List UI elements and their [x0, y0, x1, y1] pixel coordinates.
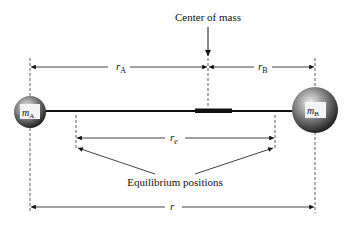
equilibrium-positions-label: Equilibrium positions [127, 176, 223, 188]
diatomic-molecule-diagram: Center of mass rA rB mA mB re Equilibriu… [0, 0, 350, 227]
r-dimension: r [31, 200, 314, 212]
center-of-mass-label: Center of mass [175, 11, 241, 23]
equilibrium-pointers [78, 148, 273, 174]
mass-b: mB [292, 87, 338, 133]
center-bar [195, 109, 232, 114]
r-a-dimension: rA [31, 60, 207, 75]
r-b-label: rB [258, 60, 268, 75]
r-a-label: rA [116, 60, 126, 75]
r-e-label: re [170, 131, 178, 146]
r-e-dimension: re [77, 131, 274, 146]
mass-a: mA [14, 96, 46, 128]
r-b-dimension: rB [209, 60, 314, 75]
r-label: r [170, 200, 175, 212]
